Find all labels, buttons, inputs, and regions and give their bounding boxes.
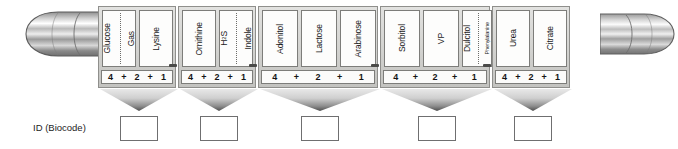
score-digit: 2 — [432, 73, 437, 82]
test-chamber-urea[interactable]: Urea — [496, 10, 530, 67]
score-plus: + — [201, 73, 206, 82]
score-digit: 1 — [472, 73, 477, 82]
score-digit: 2 — [528, 73, 533, 82]
chamber-label: Dulcitol — [463, 24, 472, 53]
score-digit: 1 — [241, 73, 246, 82]
octal-score-strip-5[interactable]: 4+2+1 — [495, 70, 567, 84]
biocode-result-box-5[interactable] — [514, 116, 552, 141]
score-digit: 4 — [272, 73, 277, 82]
score-digit: 1 — [555, 73, 560, 82]
score-plus: + — [228, 73, 233, 82]
score-plus: + — [121, 73, 126, 82]
chamber-label: Phenylalanine — [485, 21, 491, 56]
octal-score-strip-4[interactable]: 4+2+1 — [383, 70, 487, 84]
group-seam-notch — [483, 64, 491, 67]
test-group-1: GlucoseGasLysine4+2+1 — [98, 6, 176, 88]
score-digit: 2 — [134, 73, 139, 82]
test-chamber-glucose-gas[interactable]: GlucoseGas — [102, 10, 136, 67]
score-digit: 2 — [315, 73, 320, 82]
test-chamber-citrate[interactable]: Citrate — [533, 10, 567, 67]
test-chamber-lactose[interactable]: Lactose — [301, 10, 337, 67]
score-plus: + — [337, 73, 342, 82]
chamber-label: Gas — [127, 30, 136, 47]
chamber-label: Lactose — [315, 23, 324, 54]
score-digit: 4 — [502, 73, 507, 82]
chamber-label: Lysine — [152, 26, 161, 52]
score-plus: + — [542, 73, 547, 82]
test-chamber-h2s-indole[interactable]: H2SIndole — [219, 10, 253, 67]
octal-score-strip-3[interactable]: 4+2+1 — [261, 70, 375, 84]
chamber-divider — [236, 13, 237, 64]
chamber-label: Arabinose — [354, 19, 363, 58]
chamber-label: Sorbitol — [398, 23, 407, 53]
score-funnel-2 — [180, 89, 258, 111]
chamber-label: H2S — [220, 30, 229, 47]
chamber-row: UreaCitrate — [496, 10, 566, 67]
capsule-end-right-icon — [600, 8, 678, 60]
score-plus: + — [148, 73, 153, 82]
test-group-4: SorbitolVPDulcitolPhenylalanine4+2+1 — [380, 6, 490, 88]
biocode-caption: ID (Biocode) — [33, 122, 86, 133]
biocode-strip-diagram: GlucoseGasLysine4+2+1OrnithineH2SIndole4… — [0, 0, 678, 149]
chamber-label: Adonitol — [276, 23, 285, 55]
score-plus: + — [515, 73, 520, 82]
biocode-result-box-1[interactable] — [120, 116, 158, 141]
score-plus: + — [452, 73, 457, 82]
chamber-row: GlucoseGasLysine — [102, 10, 172, 67]
test-chamber-sorbitol[interactable]: Sorbitol — [384, 10, 420, 67]
biocode-result-box-4[interactable] — [418, 116, 456, 141]
score-funnel-4 — [382, 89, 492, 111]
score-funnel-5 — [494, 89, 572, 111]
score-digit: 1 — [161, 73, 166, 82]
score-digit: 1 — [359, 73, 364, 82]
score-digit: 4 — [188, 73, 193, 82]
chamber-label: Citrate — [546, 25, 555, 51]
test-strip-tray: GlucoseGasLysine4+2+1OrnithineH2SIndole4… — [98, 6, 510, 88]
chamber-label: Urea — [509, 28, 518, 48]
test-chamber-adonitol[interactable]: Adonitol — [262, 10, 298, 67]
test-chamber-vp[interactable]: VP — [423, 10, 459, 67]
chamber-divider — [120, 13, 121, 64]
group-seam-notch — [169, 64, 177, 67]
test-group-2: OrnithineH2SIndole4+2+1 — [178, 6, 256, 88]
group-seam-notch — [371, 64, 379, 67]
chamber-row: SorbitolVPDulcitolPhenylalanine — [384, 10, 486, 67]
chamber-row: AdonitolLactoseArabinose — [262, 10, 374, 67]
biocode-result-box-3[interactable] — [301, 116, 339, 141]
chamber-label: Glucose — [103, 22, 112, 54]
score-digit: 2 — [214, 73, 219, 82]
test-group-3: AdonitolLactoseArabinose4+2+1 — [258, 6, 378, 88]
chamber-label: Ornithine — [195, 21, 204, 57]
biocode-result-box-2[interactable] — [200, 116, 238, 141]
group-seam-notch — [249, 64, 257, 67]
score-plus: + — [413, 73, 418, 82]
score-digit: 4 — [108, 73, 113, 82]
test-chamber-lysine[interactable]: Lysine — [139, 10, 173, 67]
test-group-5: UreaCitrate4+2+1 — [492, 6, 570, 88]
score-funnel-1 — [100, 89, 178, 111]
score-funnel-3 — [260, 89, 380, 111]
chamber-divider — [478, 13, 479, 64]
chamber-row: OrnithineH2SIndole — [182, 10, 252, 67]
octal-score-strip-2[interactable]: 4+2+1 — [181, 70, 253, 84]
octal-score-strip-1[interactable]: 4+2+1 — [101, 70, 173, 84]
test-chamber-dulcitol-phenylalanine[interactable]: DulcitolPhenylalanine — [462, 10, 492, 67]
test-chamber-arabinose[interactable]: Arabinose — [340, 10, 376, 67]
score-plus: + — [294, 73, 299, 82]
test-chamber-ornithine[interactable]: Ornithine — [182, 10, 216, 67]
score-digit: 4 — [393, 73, 398, 82]
chamber-label: VP — [437, 32, 446, 45]
chamber-label: Indole — [244, 26, 253, 51]
